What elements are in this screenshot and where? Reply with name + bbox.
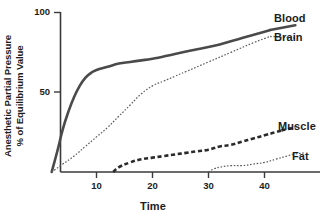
series-leader-blood [270, 25, 295, 30]
series-label-muscle: Muscle [278, 120, 316, 132]
series-layer [52, 25, 304, 172]
series-label-fat: Fat [292, 150, 309, 162]
x-tick-label-30: 30 [196, 180, 221, 191]
x-tick-label-40: 40 [252, 180, 277, 191]
x-axis-title: Time [60, 200, 246, 212]
chart-container: 100 50 10 20 30 40 Anesthetic Partial Pr… [0, 0, 336, 221]
series-path-blood [52, 30, 270, 172]
y-axis-title: Anesthetic Partial Pressure % of Equilib… [2, 6, 36, 186]
x-tick-label-10: 10 [84, 180, 109, 191]
series-path-muscle [113, 131, 281, 172]
y-axis-title-line1: Anesthetic Partial Pressure [2, 6, 14, 186]
series-path-fat [209, 154, 293, 172]
series-label-blood: Blood [274, 12, 306, 24]
x-tick-label-20: 20 [140, 180, 165, 191]
y-axis-title-line2: % of Equilibrium Value [14, 6, 26, 186]
series-label-brain: Brain [274, 31, 303, 43]
